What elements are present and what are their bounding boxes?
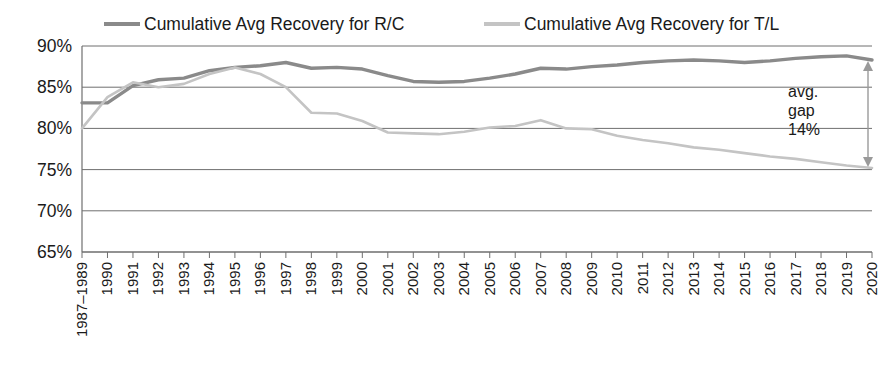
x-tick-label: 2017 <box>787 262 804 295</box>
avg-gap-annotation-line: avg. <box>788 83 818 100</box>
x-tick-label: 1990 <box>98 262 115 295</box>
x-tick-label: 1987–1989 <box>73 262 90 337</box>
x-tick-label: 1999 <box>328 262 345 295</box>
x-tick-label: 1991 <box>124 262 141 295</box>
x-tick-label: 2018 <box>812 262 829 295</box>
y-tick-label: 90% <box>37 36 72 56</box>
x-tick-label: 1997 <box>277 262 294 295</box>
x-tick-label: 2012 <box>659 262 676 295</box>
chart-canvas: Cumulative Avg Recovery for R/C Cumulati… <box>0 0 884 387</box>
x-tick-label: 1998 <box>302 262 319 295</box>
x-tick-label: 2014 <box>710 262 727 295</box>
x-tick-label: 2005 <box>481 262 498 295</box>
x-tick-label: 2003 <box>430 262 447 295</box>
chart-background <box>0 0 884 387</box>
x-tick-label: 1994 <box>200 262 217 295</box>
x-tick-label: 2016 <box>761 262 778 295</box>
y-tick-label: 65% <box>37 242 72 262</box>
avg-gap-annotation-line: 14% <box>788 121 820 138</box>
x-tick-label: 2019 <box>838 262 855 295</box>
legend-label-tl: Cumulative Avg Recovery for T/L <box>524 14 779 34</box>
x-tick-label: 2004 <box>455 262 472 295</box>
y-tick-label: 80% <box>37 118 72 138</box>
x-tick-label: 1996 <box>251 262 268 295</box>
x-tick-label: 2007 <box>532 262 549 295</box>
y-tick-label: 70% <box>37 201 72 221</box>
avg-gap-annotation-line: gap <box>788 102 815 119</box>
x-tick-label: 1993 <box>175 262 192 295</box>
legend-item-rc[interactable]: Cumulative Avg Recovery for R/C <box>104 14 404 34</box>
recovery-line-chart: Cumulative Avg Recovery for R/C Cumulati… <box>0 0 884 387</box>
legend-item-tl[interactable]: Cumulative Avg Recovery for T/L <box>484 14 779 34</box>
x-tick-label: 2000 <box>353 262 370 295</box>
x-tick-label: 2020 <box>863 262 880 295</box>
x-tick-label: 2002 <box>404 262 421 295</box>
x-tick-label: 2008 <box>557 262 574 295</box>
x-tick-label: 2006 <box>506 262 523 295</box>
x-tick-label: 2009 <box>583 262 600 295</box>
x-tick-label: 2011 <box>634 262 651 294</box>
y-tick-label: 85% <box>37 77 72 97</box>
x-tick-label: 1995 <box>226 262 243 295</box>
x-tick-label: 2015 <box>736 262 753 295</box>
legend-label-rc: Cumulative Avg Recovery for R/C <box>144 14 404 34</box>
x-tick-label: 2010 <box>608 262 625 295</box>
y-tick-label: 75% <box>37 160 72 180</box>
x-tick-label: 2001 <box>379 262 396 295</box>
x-tick-label: 2013 <box>685 262 702 295</box>
x-tick-label: 1992 <box>149 262 166 295</box>
